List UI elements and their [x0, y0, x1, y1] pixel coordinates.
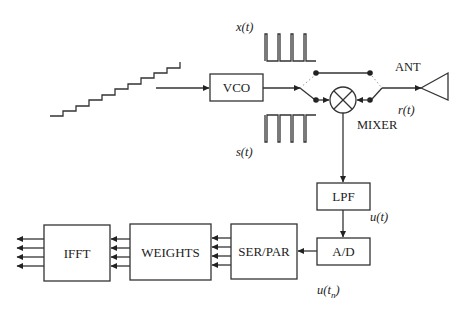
adc-block: A/D [317, 238, 370, 265]
lpf-block: LPF [317, 183, 370, 210]
switch-contact-top-right [367, 70, 373, 76]
right-switch-arm [372, 88, 382, 99]
ifft-output-bus [17, 239, 44, 266]
u-sampled-label: u(tn) [317, 283, 340, 300]
switch-contact-top-left [313, 70, 319, 76]
lpf-label: LPF [332, 189, 354, 204]
s-signal-label: s(t) [236, 145, 253, 159]
x-pulse-waveform [265, 34, 316, 61]
antenna-label: ANT [395, 60, 421, 74]
mixer-symbol [330, 87, 356, 113]
adc-label: A/D [332, 244, 354, 259]
weights-to-ifft-bus [111, 239, 130, 266]
left-switch-arm [300, 88, 314, 99]
right-switch-dotted [372, 76, 382, 88]
x-signal-label: x(t) [235, 20, 253, 34]
s-pulse-waveform [265, 115, 316, 142]
vco-block: VCO [210, 74, 263, 101]
u-signal-label: u(t) [370, 210, 388, 224]
serpar-block: SER/PAR [231, 224, 297, 279]
mixer-label: MIXER [357, 118, 398, 132]
ifft-label: IFFT [64, 246, 91, 261]
ifft-block: IFFT [44, 225, 110, 281]
vco-label: VCO [223, 80, 250, 95]
serpar-label: SER/PAR [238, 244, 290, 259]
received-signal-label: r(t) [398, 103, 415, 117]
serpar-to-weights-bus [212, 238, 231, 265]
weights-label: WEIGHTS [141, 245, 200, 260]
weights-block: WEIGHTS [130, 224, 211, 280]
left-switch-dotted [300, 76, 314, 88]
block-diagram: VCO LPF A/D SER/PAR [0, 0, 465, 313]
antenna-icon [421, 73, 448, 100]
staircase-ramp-waveform [50, 62, 180, 116]
